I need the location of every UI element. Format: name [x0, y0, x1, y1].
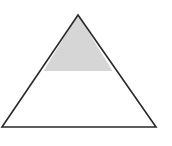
shaded-top-region — [44, 15, 113, 71]
triangle-diagram — [0, 0, 172, 146]
